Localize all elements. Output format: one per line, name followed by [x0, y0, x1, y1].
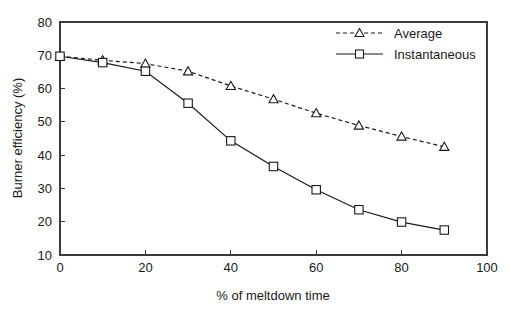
y-tick-label: 40: [38, 148, 52, 163]
data-point-triangle: [141, 59, 150, 67]
data-point-square: [269, 162, 277, 170]
data-point-triangle: [397, 132, 406, 140]
data-point-square: [99, 58, 107, 66]
y-axis-tick-labels: 1020304050607080: [38, 15, 52, 263]
data-point-square: [440, 226, 448, 234]
legend-marker-triangle-icon: [355, 29, 364, 37]
x-tick-label: 60: [309, 260, 323, 275]
series-average: [55, 52, 449, 151]
x-axis-tick-labels: 020406080100: [56, 260, 497, 275]
data-point-square: [312, 186, 320, 194]
burner-efficiency-line-chart: 1020304050607080 020406080100 % of meltd…: [0, 0, 510, 316]
legend-marker-square-icon: [356, 50, 364, 58]
data-point-square: [355, 206, 363, 214]
x-axis-ticks: [60, 250, 487, 255]
chart-figure: 1020304050607080 020406080100 % of meltd…: [0, 0, 510, 316]
data-point-square: [56, 52, 64, 60]
data-point-triangle: [354, 121, 363, 129]
legend-entry-average: Average: [336, 26, 442, 41]
data-point-square: [227, 137, 235, 145]
series-instantaneous: [56, 52, 449, 234]
data-point-triangle: [269, 95, 278, 103]
y-tick-label: 70: [38, 48, 52, 63]
x-axis-title: % of meltdown time: [216, 288, 329, 303]
y-axis-title: Burner efficiency (%): [10, 78, 25, 198]
chart-legend: Average Instantaneous: [336, 26, 476, 62]
legend-entry-instantaneous: Instantaneous: [336, 47, 476, 62]
y-tick-label: 30: [38, 181, 52, 196]
series-layer: [55, 52, 449, 235]
data-point-triangle: [184, 67, 193, 75]
series-line-instantaneous: [60, 56, 444, 230]
y-tick-label: 60: [38, 81, 52, 96]
legend-label-average: Average: [394, 26, 442, 41]
x-tick-label: 40: [224, 260, 238, 275]
data-point-square: [397, 218, 405, 226]
x-tick-label: 80: [394, 260, 408, 275]
x-tick-label: 100: [476, 260, 498, 275]
legend-label-instantaneous: Instantaneous: [394, 47, 476, 62]
data-point-square: [141, 67, 149, 75]
y-tick-label: 10: [38, 248, 52, 263]
x-tick-label: 20: [138, 260, 152, 275]
x-tick-label: 0: [56, 260, 63, 275]
y-tick-label: 20: [38, 214, 52, 229]
y-tick-label: 50: [38, 114, 52, 129]
series-line-average: [60, 56, 444, 147]
data-point-square: [184, 99, 192, 107]
y-tick-label: 80: [38, 15, 52, 30]
